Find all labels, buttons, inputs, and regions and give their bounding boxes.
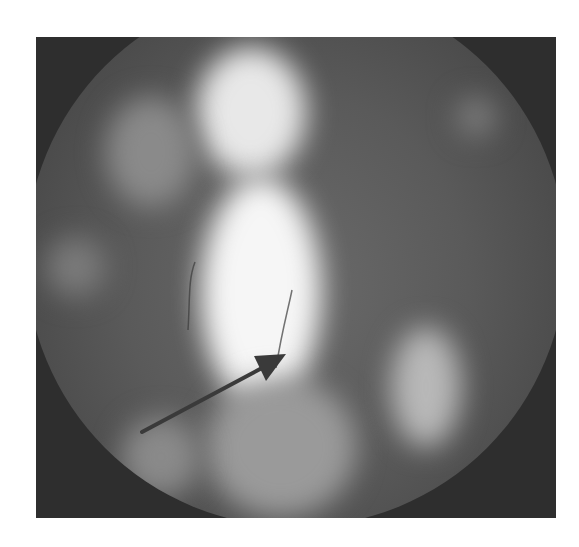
annotation-layer <box>0 0 579 547</box>
arrow-icon <box>142 354 286 432</box>
vessel-lines <box>188 262 292 368</box>
